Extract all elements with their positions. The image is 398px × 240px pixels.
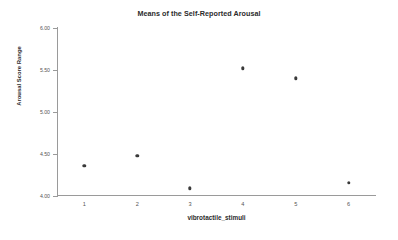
y-axis-tick-label: 4.50 <box>40 151 50 157</box>
x-axis-title: vibrotactile_stimuli <box>57 214 376 221</box>
data-point <box>294 77 297 80</box>
y-axis-tick-label: 6.00 <box>40 25 50 31</box>
data-point <box>188 187 191 190</box>
x-axis-tick-label: 5 <box>294 201 297 207</box>
data-point <box>241 67 244 70</box>
data-point <box>136 154 139 157</box>
y-axis-tick-label: 5.50 <box>40 67 50 73</box>
x-axis-tick-label: 4 <box>241 201 244 207</box>
data-point <box>347 181 350 184</box>
y-axis-title: Arousal Score Range <box>16 26 22 126</box>
y-axis-tick-label: 4.00 <box>40 193 50 199</box>
x-axis-tick-label: 6 <box>347 201 350 207</box>
scatter-plot-figure: Means of the Self-Reported Arousal 4.004… <box>0 0 398 240</box>
y-axis-tick-label: 5.00 <box>40 109 50 115</box>
data-point <box>83 164 86 167</box>
x-axis-tick-label: 1 <box>83 201 86 207</box>
x-axis-tick-label: 2 <box>136 201 139 207</box>
y-axis-tick <box>53 196 58 197</box>
chart-title: Means of the Self-Reported Arousal <box>0 9 398 18</box>
plot-area <box>58 28 375 196</box>
x-axis-tick-label: 3 <box>189 201 192 207</box>
